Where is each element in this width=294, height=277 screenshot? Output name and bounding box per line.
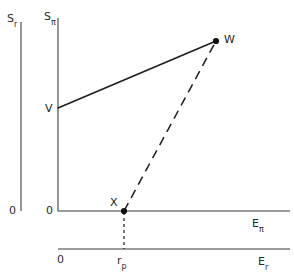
axis-label-base: E [252,217,259,230]
origin-label-secondary-vertical: 0 [9,205,16,216]
origin-label-secondary-horizontal: 0 [57,254,64,265]
secondary-horizontal-axis-label: Er [258,256,268,270]
tick-label-subscript: p [122,262,127,271]
primary-horizontal-axis-label: Eπ [252,218,264,232]
diagram-svg [0,0,294,277]
axis-label-base: S [7,12,14,25]
line-v-to-w [58,41,216,108]
line-x-to-w [124,41,216,211]
figure-canvas: Sr Sπ Eπ Er 0 0 0 V W X rp [0,0,294,277]
x-tick-label-rp: rp [117,255,127,269]
point-label-v: V [45,103,53,114]
point-marker-x [121,208,127,214]
axis-label-base: S [44,10,51,23]
axis-label-subscript: r [14,20,17,29]
origin-label-primary: 0 [46,205,53,216]
point-label-x: X [110,197,118,208]
axis-label-subscript: r [265,263,268,272]
primary-vertical-axis-label: Sπ [44,11,56,25]
point-label-w: W [224,34,235,45]
tick-label-base: r [117,254,122,267]
axis-label-subscript: π [259,225,264,234]
secondary-vertical-axis-label: Sr [7,13,17,27]
axis-label-base: E [258,255,265,268]
axis-label-subscript: π [51,18,56,27]
point-marker-w [213,38,219,44]
